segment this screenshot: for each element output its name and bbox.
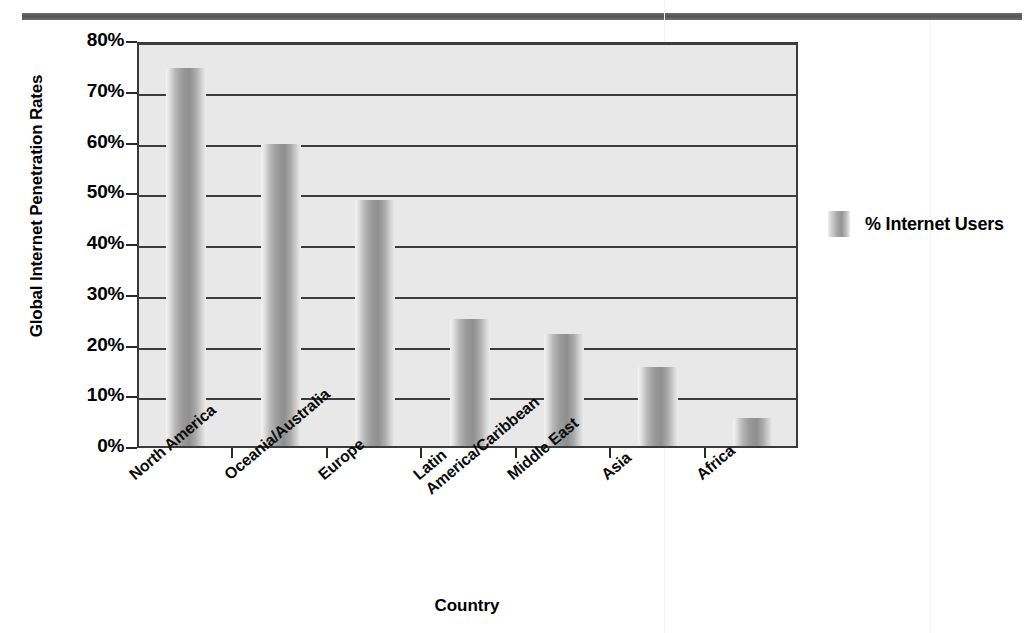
y-tick-20 <box>126 346 137 348</box>
y-tick-label-0: 0% <box>46 435 124 457</box>
y-tick-60 <box>126 143 137 145</box>
bar-0 <box>166 68 206 446</box>
x-category-label-5: Asia <box>598 449 635 484</box>
y-tick-label-wrap-40: 40% <box>40 232 124 256</box>
y-tick-40 <box>126 244 137 246</box>
y-tick-50 <box>126 193 137 195</box>
y-tick-label-wrap-50: 50% <box>40 181 124 205</box>
x-tick-5 <box>704 448 706 458</box>
bars-layer <box>139 44 796 446</box>
chart-legend: % Internet Users <box>828 211 1004 237</box>
x-tick-2 <box>420 448 422 458</box>
x-tick-3 <box>515 448 517 458</box>
y-tick-label-70: 70% <box>46 80 124 102</box>
bar-chart: Global Internet Penetration Rates 0%10%2… <box>0 0 1030 633</box>
bar-2 <box>355 200 395 446</box>
bar-1 <box>261 144 301 446</box>
x-tick-1 <box>326 448 328 458</box>
y-tick-30 <box>126 295 137 297</box>
y-tick-label-wrap-80: 80% <box>40 29 124 53</box>
y-tick-label-wrap-20: 20% <box>40 334 124 358</box>
y-tick-label-30: 30% <box>46 283 124 305</box>
y-tick-label-wrap-0: 0% <box>40 435 124 459</box>
y-tick-label-wrap-30: 30% <box>40 283 124 307</box>
y-tick-label-60: 60% <box>46 131 124 153</box>
x-axis-title: Country <box>337 596 597 616</box>
y-tick-label-wrap-70: 70% <box>40 80 124 104</box>
y-tick-label-wrap-60: 60% <box>40 131 124 155</box>
y-tick-10 <box>126 396 137 398</box>
x-tick-0 <box>231 448 233 458</box>
bar-6 <box>733 418 773 446</box>
y-tick-label-50: 50% <box>46 181 124 203</box>
y-tick-label-wrap-10: 10% <box>40 384 124 408</box>
x-tick-4 <box>609 448 611 458</box>
y-tick-80 <box>126 41 137 43</box>
y-tick-0 <box>126 447 137 449</box>
y-tick-label-80: 80% <box>46 29 124 51</box>
plot-area <box>137 42 798 448</box>
legend-swatch-internet-users <box>828 211 850 237</box>
legend-label-internet-users: % Internet Users <box>865 214 1004 235</box>
y-tick-70 <box>126 92 137 94</box>
y-tick-label-20: 20% <box>46 334 124 356</box>
bar-5 <box>638 367 678 446</box>
y-tick-label-40: 40% <box>46 232 124 254</box>
y-tick-label-10: 10% <box>46 384 124 406</box>
